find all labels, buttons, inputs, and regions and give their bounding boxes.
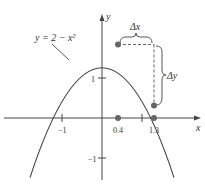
delta-y-brace: [156, 46, 166, 105]
x-axis-label: x: [195, 122, 201, 133]
x-tick-label-0.4: 0.4: [113, 126, 123, 135]
y-tick-label-1: 1: [91, 75, 95, 84]
x-tick-label-1.3: 1.3: [149, 126, 159, 135]
x-axis-arrow-icon: [194, 116, 201, 121]
x-tick-label-minus-1: −1: [58, 126, 67, 135]
delta-x-label: Δx: [129, 21, 141, 32]
delta-x-brace: [120, 33, 152, 43]
y-tick-label-minus-1: −1: [88, 155, 97, 164]
x-point-0.4: [115, 115, 121, 121]
y-axis-arrow-icon: [100, 14, 105, 21]
delta-y-label: Δy: [166, 70, 178, 81]
y-axis-label: y: [105, 11, 111, 22]
curve-point-1.3: [151, 103, 157, 109]
function-label: y = 2 − x²: [34, 32, 76, 43]
curve-point-0.4: [115, 42, 121, 48]
curve-label-pointer: [52, 44, 69, 60]
function-graph: y = 2 − x² y x −1 0.4 1.3 1 −1 Δx Δy: [0, 0, 205, 192]
x-point-1.3: [151, 115, 157, 121]
